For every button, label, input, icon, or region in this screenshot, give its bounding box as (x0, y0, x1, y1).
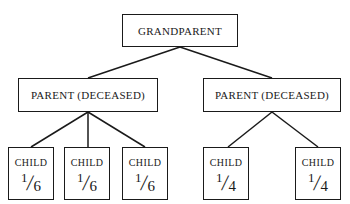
parent-1-label: PARENT (DECEASED) (31, 89, 145, 101)
child-node-1: CHILD 1 / 6 (8, 147, 54, 200)
child-node-3: CHILD 1 / 6 (122, 147, 168, 200)
child-5-share: 1 / 4 (308, 170, 328, 192)
edge-parent-1-child-3 (88, 112, 145, 147)
parent-node-2: PARENT (DECEASED) (203, 78, 341, 112)
grandparent-node: GRANDPARENT (122, 14, 238, 47)
child-3-share: 1 / 6 (135, 170, 155, 192)
parent-2-label: PARENT (DECEASED) (215, 89, 329, 101)
edge-grandparent-parent-2 (180, 47, 272, 78)
child-node-5: CHILD 1 / 4 (295, 147, 341, 200)
edge-parent-2-child-5 (272, 112, 318, 147)
child-node-2: CHILD 1 / 6 (64, 147, 110, 200)
edge-grandparent-parent-1 (88, 47, 180, 78)
child-5-label: CHILD (302, 157, 335, 169)
child-4-share: 1 / 4 (216, 170, 236, 192)
edge-parent-1-child-1 (31, 112, 88, 147)
child-3-label: CHILD (129, 157, 162, 169)
edge-parent-2-child-4 (228, 112, 272, 147)
child-1-label: CHILD (15, 157, 48, 169)
share-denominator: 6 (90, 179, 98, 194)
share-denominator: 4 (321, 179, 329, 194)
child-4-label: CHILD (210, 157, 243, 169)
child-2-label: CHILD (71, 157, 104, 169)
share-denominator: 6 (34, 179, 42, 194)
child-2-share: 1 / 6 (77, 170, 97, 192)
grandparent-label: GRANDPARENT (138, 25, 222, 37)
share-denominator: 4 (229, 179, 237, 194)
child-1-share: 1 / 6 (21, 170, 41, 192)
child-node-4: CHILD 1 / 4 (203, 147, 249, 200)
share-denominator: 6 (148, 179, 156, 194)
parent-node-1: PARENT (DECEASED) (18, 78, 158, 112)
